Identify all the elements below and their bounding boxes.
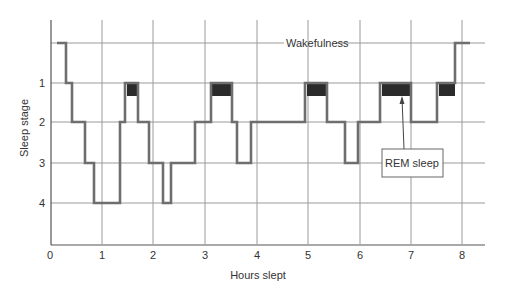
- grid: [51, 20, 485, 244]
- svg-text:3: 3: [202, 249, 208, 261]
- svg-text:7: 7: [408, 249, 414, 261]
- x-axis-title: Hours slept: [230, 269, 286, 281]
- y-tick-labels: 1 2 3 4: [39, 77, 45, 209]
- svg-text:5: 5: [305, 249, 311, 261]
- x-tick-labels: 0 1 2 3 4 5 6 7 8: [47, 249, 465, 261]
- y-axis-title: Sleep stage: [18, 99, 30, 157]
- rem-block-4: [382, 84, 410, 96]
- axes: [51, 20, 485, 245]
- svg-text:4: 4: [254, 249, 260, 261]
- svg-text:2: 2: [150, 249, 156, 261]
- svg-text:6: 6: [357, 249, 363, 261]
- rem-blocks: [127, 84, 455, 96]
- svg-text:4: 4: [39, 197, 45, 209]
- hypnogram-chart: Wakefulness REM sleep 1 2 3 4 0 1 2 3 4 …: [0, 0, 505, 288]
- wakefulness-label: Wakefulness: [286, 37, 349, 49]
- svg-text:2: 2: [39, 116, 45, 128]
- rem-block-3: [307, 84, 326, 96]
- svg-text:0: 0: [47, 249, 53, 261]
- rem-block-5: [439, 84, 455, 96]
- svg-text:1: 1: [99, 249, 105, 261]
- rem-sleep-label: REM sleep: [385, 157, 439, 169]
- svg-text:8: 8: [459, 249, 465, 261]
- svg-text:1: 1: [39, 77, 45, 89]
- sleep-stage-line: [57, 43, 470, 203]
- rem-block-2: [212, 84, 231, 96]
- rem-block-1: [127, 84, 137, 96]
- rem-callout: REM sleep: [382, 96, 443, 177]
- svg-text:3: 3: [39, 157, 45, 169]
